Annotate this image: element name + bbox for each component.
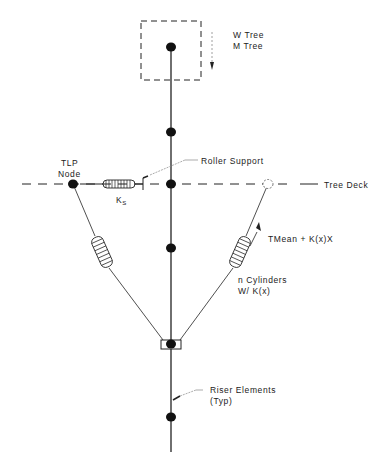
riser-elements-label-1: Riser Elements (210, 385, 276, 395)
roller-leader (150, 160, 185, 175)
tension-arrow-head (256, 222, 261, 231)
tensioner-node (166, 340, 176, 349)
riser-node (166, 244, 176, 253)
tree-node (166, 43, 176, 52)
right-tendon-lower (180, 268, 233, 340)
riser-model-diagram (0, 0, 389, 465)
riser-elements-label-2: (Typ) (210, 396, 232, 406)
riser-leader-arrow (173, 396, 180, 400)
riser-node (166, 413, 176, 422)
cylinders-label-1: n Cylinders (238, 275, 287, 285)
right-cylinder-spring (228, 235, 252, 269)
tlp-node (68, 180, 78, 189)
tlp-node-label-1: TLP (61, 158, 78, 168)
tlp-node-label-2: Node (58, 169, 81, 179)
riser-node (166, 128, 176, 137)
tension-arrow-shaft (250, 232, 257, 246)
weight-arrow-head (210, 62, 214, 70)
tree-deck-label: Tree Deck (324, 180, 368, 190)
right-tlp-node (263, 180, 273, 189)
riser-leader (180, 390, 196, 396)
left-cylinder-spring (90, 235, 114, 269)
cylinders-label-2: W/ K(x) (238, 286, 271, 296)
left-tendon-upper (73, 184, 95, 236)
tree-deck-node (166, 180, 176, 189)
roller-support-label: Roller Support (201, 156, 264, 166)
spring-ks (80, 176, 148, 190)
left-tendon-lower (109, 268, 163, 340)
ks-label: KS (116, 195, 127, 206)
w-tree-label: W Tree (233, 30, 264, 40)
m-tree-label: M Tree (233, 41, 263, 51)
tension-label: TMean + K(x)X (268, 234, 333, 244)
